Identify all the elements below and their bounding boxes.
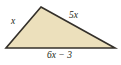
label-right-side: 5x: [69, 11, 78, 21]
triangle-figure: x 5x 6x − 3: [0, 0, 121, 65]
label-left-side: x: [11, 17, 15, 27]
triangle-polygon: [6, 7, 115, 48]
label-base-side: 6x − 3: [47, 51, 72, 61]
